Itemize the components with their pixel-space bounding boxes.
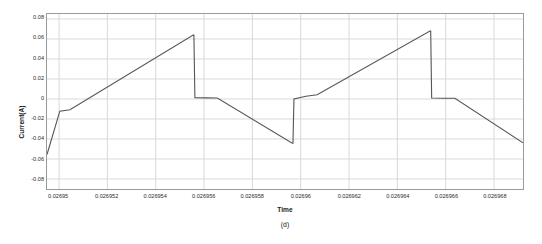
y-tick-label: -0.02	[0, 116, 44, 122]
y-tick-label: 0.06	[0, 35, 44, 41]
current-waveform	[47, 14, 523, 189]
y-tick-label: 0	[0, 96, 44, 102]
y-tick-label: 0.02	[0, 76, 44, 82]
x-tick-label: 0.026968	[465, 194, 525, 200]
y-axis-title: Current(A)	[18, 106, 25, 139]
y-tick-label: -0.08	[0, 177, 44, 183]
y-tick-label: -0.04	[0, 136, 44, 142]
y-tick-label: 0.08	[0, 15, 44, 21]
x-axis-title: Time	[46, 206, 524, 213]
figure-panel: Current(A) 0.080.060.040.020-0.02-0.04-0…	[0, 0, 542, 244]
plot-area	[46, 13, 524, 190]
y-tick-label: -0.06	[0, 157, 44, 163]
figure-caption: (d)	[46, 221, 524, 228]
y-tick-label: 0.04	[0, 56, 44, 62]
